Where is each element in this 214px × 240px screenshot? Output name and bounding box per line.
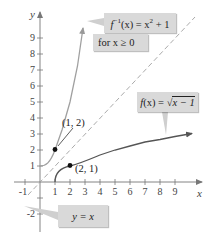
inverse-callout-pointer [87,18,104,26]
inverse-condition: for x ≥ 0 [98,37,134,48]
x-axis-label: x [196,187,202,199]
y-tick-label: 1 [30,160,35,171]
point-2-1 [68,163,73,168]
y-tick-label: 3 [30,128,35,139]
inverse-function-curve [40,28,83,166]
y-axis-label: y [29,8,35,20]
x-tick-label: 4 [98,186,103,197]
point-1-2 [53,147,58,152]
point-2-1-label: (2, 1) [75,163,98,175]
identity-callout: y = x [58,205,108,227]
y-tick-label: 8 [30,48,35,59]
point-1-2-leader [58,128,73,146]
x-tick-label: 7 [143,186,148,197]
f-radicand: x − 1 [172,96,194,108]
x-tick-label: 2 [68,186,73,197]
inverse-function-callout: f−1(x) = x2 + 1 [104,13,176,33]
x-tick-label: 5 [113,186,118,197]
x-tick-label: 3 [83,186,88,197]
inverse-arg: (x) = x [121,18,150,29]
y-tick-label: 5 [30,96,35,107]
x-tick-label: -1 [19,186,27,197]
f-mid: (x) = [143,97,166,108]
y-tick-label: 6 [30,80,35,91]
inverse-sup: −1 [113,17,120,25]
x-tick-label: 8 [158,186,163,197]
inverse-domain-callout: for x ≥ 0 [93,34,148,51]
inverse-rest: + 1 [153,18,169,29]
f-callout-pointer [162,112,168,135]
function-curve [55,134,192,183]
function-callout: f(x) = √x − 1 [137,92,198,112]
identity-text: y = x [72,211,94,222]
x-tick-label: 6 [128,186,133,197]
point-1-2-label: (1, 2) [62,117,85,129]
y-tick-label: 2 [30,144,35,155]
x-tick-label: 1 [53,186,58,197]
y-tick-label: 4 [30,112,35,123]
x-tick-label: 9 [173,186,178,197]
y-tick-label: 9 [30,32,35,43]
y-tick-label: 7 [30,64,35,75]
